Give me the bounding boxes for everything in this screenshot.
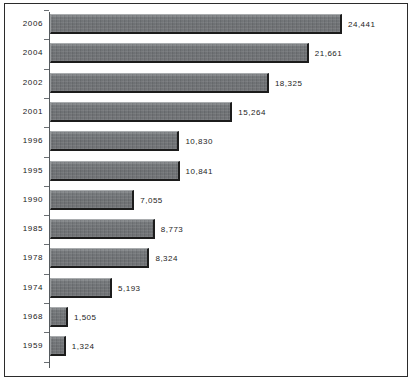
bar-category-label: 1978 — [5, 253, 43, 263]
bar-category-label: 1990 — [5, 195, 43, 205]
bar[interactable] — [50, 190, 134, 210]
bar-row: 200115,264 — [5, 102, 409, 122]
axis-tick — [44, 157, 49, 158]
bar[interactable] — [50, 278, 112, 298]
bar[interactable] — [50, 161, 180, 181]
axis-tick — [44, 10, 49, 11]
bar-row: 19788,324 — [5, 248, 409, 268]
bar-row: 19858,773 — [5, 219, 409, 239]
bar[interactable] — [50, 43, 309, 63]
axis-tick — [44, 186, 49, 187]
bar-value-label: 5,193 — [118, 283, 141, 292]
axis-tick — [44, 274, 49, 275]
bar-value-label: 1,505 — [74, 313, 97, 322]
bar-row: 199510,841 — [5, 161, 409, 181]
bar-row: 19591,324 — [5, 336, 409, 356]
bar-category-label: 2006 — [5, 19, 43, 29]
bar-value-label: 7,055 — [140, 195, 163, 204]
bar-category-label: 1959 — [5, 341, 43, 351]
bar[interactable] — [50, 131, 179, 151]
bar-row: 19745,193 — [5, 278, 409, 298]
bar-row: 199610,830 — [5, 131, 409, 151]
axis-tick — [44, 39, 49, 40]
axis-tick — [44, 69, 49, 70]
chart-frame: 200624,441200421,661200218,325200115,264… — [4, 3, 408, 377]
bar-value-label: 10,830 — [185, 137, 212, 146]
bar-category-label: 2002 — [5, 78, 43, 88]
bar-row: 200624,441 — [5, 14, 409, 34]
axis-tick — [44, 98, 49, 99]
bar[interactable] — [50, 248, 149, 268]
axis-tick — [44, 215, 49, 216]
bar-row: 200421,661 — [5, 43, 409, 63]
axis-tick — [44, 244, 49, 245]
bar-value-label: 24,441 — [348, 20, 375, 29]
axis-tick — [44, 303, 49, 304]
bar-row: 19681,505 — [5, 307, 409, 327]
bar-row: 200218,325 — [5, 73, 409, 93]
bar-category-label: 2004 — [5, 48, 43, 58]
bar-value-label: 10,841 — [186, 166, 213, 175]
bar[interactable] — [50, 307, 68, 327]
bar-value-label: 1,324 — [72, 342, 95, 351]
bar-category-label: 1974 — [5, 283, 43, 293]
bar-value-label: 8,773 — [161, 225, 184, 234]
bar-value-label: 15,264 — [238, 107, 265, 116]
bar-category-label: 1968 — [5, 312, 43, 322]
axis-tick — [44, 332, 49, 333]
bar-value-label: 21,661 — [315, 49, 342, 58]
bar-category-label: 1996 — [5, 136, 43, 146]
bar-value-label: 18,325 — [275, 78, 302, 87]
bar-value-label: 8,324 — [155, 254, 178, 263]
bar-category-label: 1995 — [5, 166, 43, 176]
axis-tick — [44, 362, 49, 363]
bar[interactable] — [50, 102, 232, 122]
bar[interactable] — [50, 219, 155, 239]
bar[interactable] — [50, 14, 342, 34]
bar-row: 19907,055 — [5, 190, 409, 210]
bar-category-label: 2001 — [5, 107, 43, 117]
bar[interactable] — [50, 73, 269, 93]
plot-area: 200624,441200421,661200218,325200115,264… — [5, 4, 409, 378]
bar-category-label: 1985 — [5, 224, 43, 234]
axis-tick — [44, 127, 49, 128]
bar[interactable] — [50, 336, 66, 356]
